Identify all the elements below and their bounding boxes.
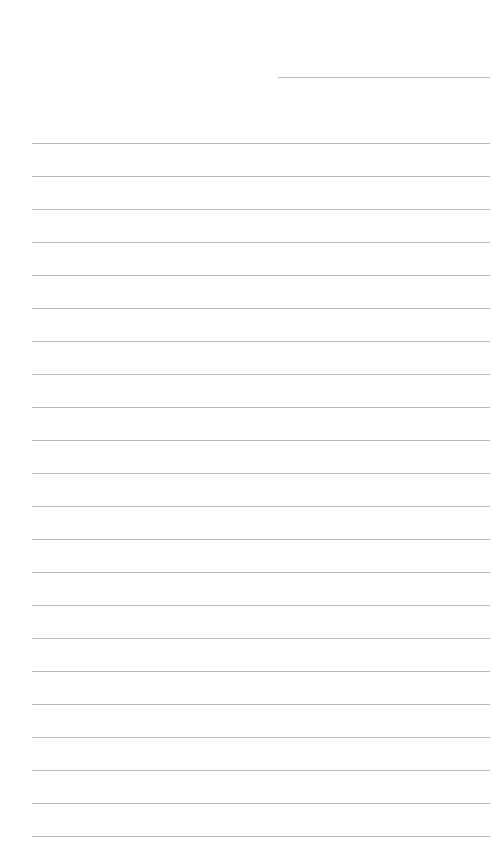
ruled-line [32,803,490,804]
ruled-line [32,671,490,672]
ruled-line [32,209,490,210]
ruled-line [32,539,490,540]
header-name-line [278,77,490,78]
ruled-paper-page [0,0,499,866]
ruled-line [32,572,490,573]
ruled-line [32,407,490,408]
ruled-line [32,770,490,771]
ruled-line [32,836,490,837]
ruled-line [32,638,490,639]
ruled-line [32,473,490,474]
ruled-line [32,440,490,441]
ruled-line [32,275,490,276]
ruled-line [32,341,490,342]
ruled-line [32,506,490,507]
ruled-line [32,176,490,177]
ruled-line [32,242,490,243]
ruled-line [32,308,490,309]
ruled-line [32,374,490,375]
ruled-line [32,737,490,738]
ruled-line [32,143,490,144]
ruled-line [32,605,490,606]
ruled-line [32,704,490,705]
